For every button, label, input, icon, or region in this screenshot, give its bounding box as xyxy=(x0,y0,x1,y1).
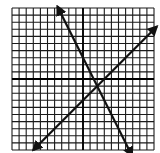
coordinate-grid-chart xyxy=(0,0,160,153)
line-positive-slope xyxy=(33,26,157,150)
